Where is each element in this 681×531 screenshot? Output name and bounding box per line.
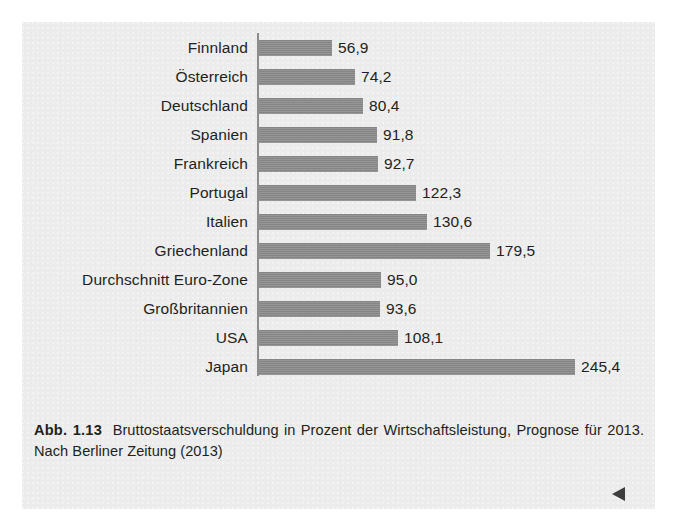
chart-row: Großbritannien93,6 [22,294,655,323]
category-label: Italien [206,213,257,231]
bar [259,243,490,259]
chart-row: Italien130,6 [22,207,655,236]
bar-value-label: 108,1 [404,329,443,347]
figure-caption: Abb. 1.13 Bruttostaatsverschuldung in Pr… [34,420,644,462]
bar-value-label: 92,7 [384,155,415,173]
category-label: Griechenland [155,242,257,260]
bar-value-label: 56,9 [338,39,369,57]
category-label: USA [216,329,257,347]
chart-row: Finnland56,9 [22,33,655,62]
chart-row: Frankreich92,7 [22,149,655,178]
bar-value-label: 122,3 [422,184,461,202]
category-label: Deutschland [161,97,257,115]
figure-panel: Finnland56,9Österreich74,2Deutschland80,… [22,22,655,509]
bar [259,98,363,114]
category-label: Frankreich [174,155,257,173]
bar [259,214,427,230]
chart-row: Österreich74,2 [22,62,655,91]
caption-description: Bruttostaatsverschuldung in Prozent der … [34,422,644,459]
category-label: Spanien [190,126,257,144]
chart-row: Griechenland179,5 [22,236,655,265]
left-triangle-icon [612,487,625,501]
category-label: Großbritannien [143,300,257,318]
bar [259,359,575,375]
bar-value-label: 93,6 [386,300,417,318]
bar [259,69,355,85]
bar-value-label: 80,4 [369,97,400,115]
bar [259,40,332,56]
bar [259,185,416,201]
chart-row: Deutschland80,4 [22,91,655,120]
chart-row: Spanien91,8 [22,120,655,149]
bar-value-label: 74,2 [361,68,392,86]
caption-figure-number: Abb. 1.13 [34,422,102,438]
chart-row: USA108,1 [22,323,655,352]
category-label: Finnland [188,39,257,57]
bar [259,330,398,346]
bar [259,272,381,288]
category-label: Durchschnitt Euro-Zone [82,271,257,289]
bar-value-label: 130,6 [433,213,472,231]
chart-row: Durchschnitt Euro-Zone95,0 [22,265,655,294]
category-label: Österreich [176,68,258,86]
bar [259,156,378,172]
bar-value-label: 91,8 [383,126,414,144]
bar-value-label: 179,5 [496,242,535,260]
bar [259,301,380,317]
bar [259,127,377,143]
category-label: Japan [205,358,257,376]
bar-value-label: 245,4 [581,358,620,376]
bar-value-label: 95,0 [387,271,418,289]
bar-chart: Finnland56,9Österreich74,2Deutschland80,… [22,33,655,418]
chart-row: Japan245,4 [22,352,655,381]
chart-row: Portugal122,3 [22,178,655,207]
category-label: Portugal [189,184,257,202]
